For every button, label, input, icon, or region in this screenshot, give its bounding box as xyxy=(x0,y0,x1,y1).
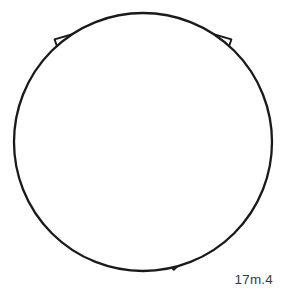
figure-caption: 17m.4 xyxy=(234,273,273,287)
mosaic-diagram xyxy=(0,0,287,294)
outer-circle-boundary xyxy=(14,13,272,271)
mosaic-figure: 17m.4 xyxy=(0,0,287,294)
circle-boundary-layer xyxy=(14,13,272,271)
